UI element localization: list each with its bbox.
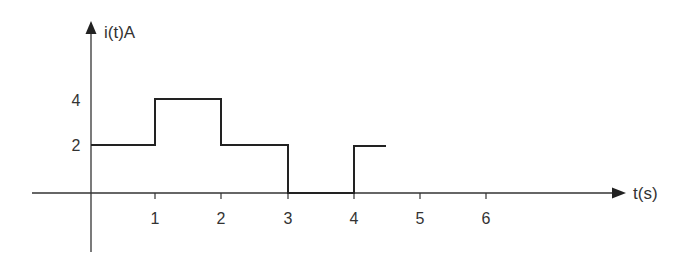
x-tick-label: 2 — [217, 210, 226, 227]
x-axis-arrow-icon — [612, 188, 626, 199]
x-tick-label: 5 — [416, 210, 425, 227]
y-tick-label: 4 — [72, 92, 81, 109]
step-chart: t(s) i(t)A 1 2 3 4 5 6 2 4 — [0, 0, 686, 256]
x-tick-label: 6 — [482, 210, 491, 227]
y-axis-label: i(t)A — [104, 23, 136, 42]
x-tick-label: 4 — [350, 210, 359, 227]
x-tick-label: 3 — [284, 210, 293, 227]
x-tick-labels: 1 2 3 4 5 6 — [151, 210, 491, 227]
y-axis-arrow-icon — [86, 21, 97, 34]
signal-line — [91, 99, 386, 193]
x-axis-label: t(s) — [633, 184, 658, 203]
x-tick-label: 1 — [151, 210, 160, 227]
y-tick-label: 2 — [72, 137, 81, 154]
y-tick-labels: 2 4 — [72, 92, 81, 154]
